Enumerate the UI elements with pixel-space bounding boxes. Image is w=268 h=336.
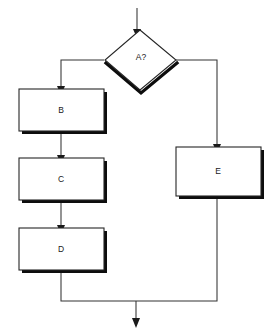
node-B[interactable]: B [19,89,107,134]
node-D-label: D [58,244,64,254]
node-E[interactable]: E [176,147,264,199]
edge-D-to-merge [61,270,136,301]
node-D[interactable]: D [19,228,107,273]
node-B-label: B [58,105,64,115]
arrowhead-merge-to-exit [132,318,140,328]
node-E-label: E [215,166,221,176]
diagram-canvas: B C D E A? [0,0,268,336]
edge-E-to-merge [136,196,217,301]
node-A-label: A? [136,52,147,62]
node-A[interactable]: A? [105,30,177,93]
node-C-label: C [58,174,64,184]
flowchart-svg: B C D E A? [0,0,268,336]
edge-A-to-B [61,60,104,86]
edge-A-to-E [176,60,217,144]
node-C[interactable]: C [19,158,107,203]
